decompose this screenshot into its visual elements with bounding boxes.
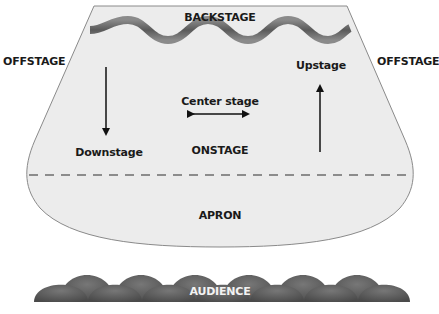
center-stage-label: Center stage bbox=[181, 95, 259, 108]
apron-label: APRON bbox=[199, 209, 242, 222]
onstage-label: ONSTAGE bbox=[192, 144, 249, 157]
offstage-left-label: OFFSTAGE bbox=[3, 55, 65, 68]
audience-label: AUDIENCE bbox=[189, 285, 250, 298]
downstage-label: Downstage bbox=[75, 146, 142, 159]
backstage-label: BACKSTAGE bbox=[184, 11, 255, 24]
upstage-label: Upstage bbox=[296, 59, 346, 72]
offstage-right-label: OFFSTAGE bbox=[377, 55, 439, 68]
